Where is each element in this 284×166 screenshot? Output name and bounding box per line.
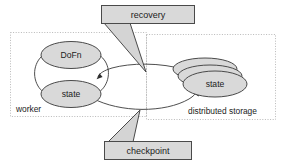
diagram-svg: DoFn state state worker distributed stor…	[0, 0, 284, 166]
zone-distributed-storage-label: distributed storage	[188, 106, 257, 116]
node-worker-state-label: state	[62, 89, 81, 99]
diagram-canvas: DoFn state state worker distributed stor…	[0, 0, 284, 166]
edge-worker-to-storage	[92, 90, 200, 109]
callout-checkpoint[interactable]: checkpoint	[105, 110, 192, 160]
callout-recovery-label: recovery	[131, 10, 166, 20]
callout-recovery-tail	[104, 23, 146, 72]
callout-checkpoint-label: checkpoint	[126, 146, 170, 156]
node-storage-state[interactable]: state	[173, 58, 247, 97]
zone-worker-label: worker	[15, 104, 41, 114]
node-storage-state-label: state	[206, 79, 225, 89]
callout-checkpoint-tail	[108, 110, 140, 142]
node-dofn-label: DoFn	[60, 50, 81, 60]
